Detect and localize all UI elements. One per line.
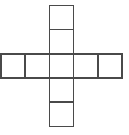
cell-center [49, 54, 73, 78]
cube-net-figure [0, 0, 129, 135]
cell-bottom-inner [49, 78, 73, 102]
cube-net-diagram [0, 0, 129, 135]
cell-row-5 [98, 54, 122, 78]
net-square-group [1, 5, 122, 126]
cell-top-inner [49, 30, 73, 54]
cell-bottom-outer [49, 102, 73, 126]
cell-top-outer [49, 5, 73, 29]
cell-row-2 [25, 54, 49, 78]
cell-row-1 [1, 54, 25, 78]
cell-row-4 [74, 54, 98, 78]
